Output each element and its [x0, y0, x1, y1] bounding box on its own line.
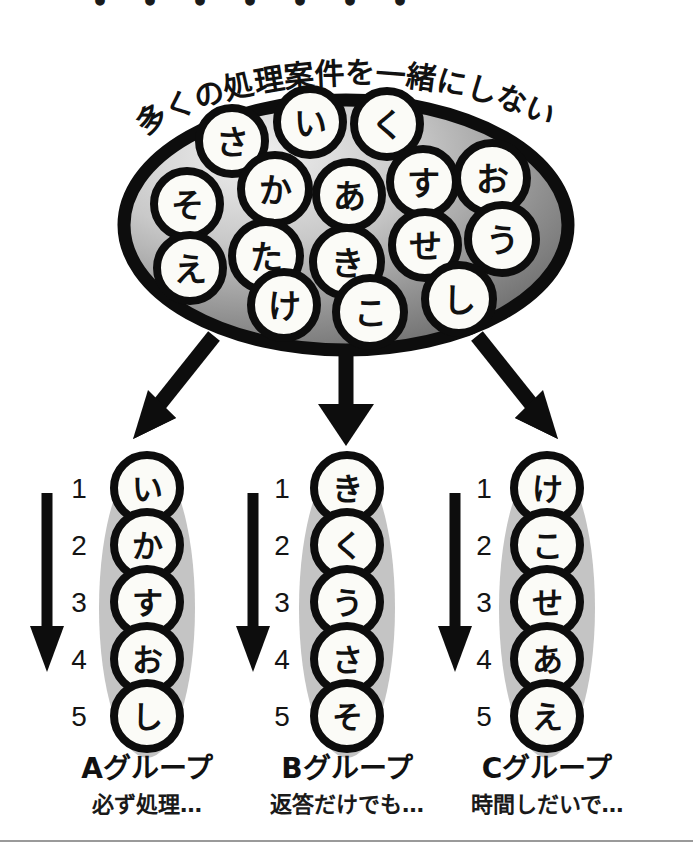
- group-A-item-5[interactable]: し: [114, 683, 180, 749]
- pool-letter-す[interactable]: す: [390, 149, 456, 215]
- group-column-C: 1け2こ3せ4あ5えCグループ時間しだいで…: [438, 455, 624, 817]
- pool-letter-し[interactable]: し: [425, 265, 493, 333]
- letter-label: そ: [332, 699, 363, 735]
- group-column-B: 1き2く3う4さ5そBグループ返答だけでも…: [236, 455, 424, 817]
- group-subtitle-A: 必ず処理…: [92, 792, 202, 817]
- group-order-arrow-A: [30, 493, 64, 672]
- group-B-item-5[interactable]: そ: [314, 683, 380, 749]
- letter-label: あ: [532, 642, 563, 678]
- rank-number: 4: [71, 644, 87, 675]
- letter-label: せ: [532, 585, 563, 621]
- pool-letter-こ[interactable]: こ: [336, 278, 404, 346]
- bottom-rule: [0, 840, 693, 842]
- group-title-C: Cグループ: [482, 752, 614, 785]
- rank-number: 3: [476, 587, 492, 618]
- rank-number: 1: [71, 473, 87, 504]
- pool-letter-く[interactable]: く: [354, 91, 420, 157]
- rank-number: 4: [274, 644, 290, 675]
- letter-label: す: [407, 164, 440, 203]
- letter-label: け: [532, 471, 563, 507]
- letter-label: け: [268, 287, 301, 326]
- group-order-arrow-B: [236, 493, 270, 672]
- pool-letter-け[interactable]: け: [251, 272, 317, 338]
- letter-label: う: [486, 221, 519, 260]
- rank-number: 2: [476, 530, 492, 561]
- group-title-A: Aグループ: [81, 752, 214, 785]
- letter-label: い: [294, 104, 327, 143]
- letter-label: あ: [333, 177, 366, 216]
- letter-label: か: [132, 528, 163, 564]
- pool-letter-か[interactable]: か: [241, 155, 309, 223]
- figure-root: ・・・・・・・ 多くの処理案件を一緒にしない さいくそかあすおえたきせうけこし: [0, 0, 693, 851]
- group-column-A: 1い2か3す4お5しAグループ必ず処理…: [30, 455, 214, 817]
- letter-label: い: [132, 471, 163, 507]
- letter-label: し: [132, 699, 163, 735]
- rank-number: 5: [71, 701, 87, 732]
- letter-label: そ: [171, 186, 204, 225]
- letter-label: し: [443, 281, 476, 320]
- group-C-item-5[interactable]: え: [514, 683, 580, 749]
- pool-letter-い[interactable]: い: [277, 89, 343, 155]
- letter-label: さ: [332, 642, 363, 678]
- diagram-canvas: 多くの処理案件を一緒にしない さいくそかあすおえたきせうけこし 1い2か3す4お…: [0, 0, 693, 851]
- pool-letter-う[interactable]: う: [468, 205, 536, 273]
- fanout-arrow-middle: [318, 352, 374, 446]
- group-order-arrow-C: [438, 493, 472, 672]
- letter-label: お: [132, 642, 163, 678]
- letter-label: く: [371, 106, 404, 145]
- letter-label: こ: [354, 294, 387, 333]
- pool-letter-そ[interactable]: そ: [154, 171, 220, 237]
- letter-label: え: [174, 250, 207, 289]
- group-title-B: Bグループ: [281, 752, 413, 785]
- letter-label: き: [332, 471, 363, 507]
- rank-number: 3: [274, 587, 290, 618]
- rank-number: 2: [274, 530, 290, 561]
- rank-number: 5: [476, 701, 492, 732]
- group-subtitle-C: 時間しだいで…: [471, 792, 624, 817]
- fanout-arrow-left: [133, 336, 214, 439]
- letter-label: く: [332, 528, 363, 564]
- letter-label: え: [532, 699, 563, 735]
- pool-letter-あ[interactable]: あ: [316, 162, 382, 228]
- rank-number: 4: [476, 644, 492, 675]
- rank-number: 1: [274, 473, 290, 504]
- letter-label: こ: [532, 528, 563, 564]
- rank-number: 5: [274, 701, 290, 732]
- letter-label: せ: [409, 227, 442, 266]
- letter-label: す: [132, 585, 163, 621]
- group-subtitle-B: 返答だけでも…: [270, 792, 424, 817]
- pool-letter-え[interactable]: え: [157, 235, 223, 301]
- letter-label: お: [476, 160, 509, 199]
- letter-label: か: [259, 171, 292, 210]
- letter-label: さ: [216, 123, 249, 162]
- rank-number: 1: [476, 473, 492, 504]
- rank-number: 3: [71, 587, 87, 618]
- letter-label: う: [332, 585, 363, 621]
- group-columns: 1い2か3す4お5しAグループ必ず処理…1き2く3う4さ5そBグループ返答だけで…: [30, 455, 624, 817]
- rank-number: 2: [71, 530, 87, 561]
- fanout-arrow-right: [477, 336, 558, 439]
